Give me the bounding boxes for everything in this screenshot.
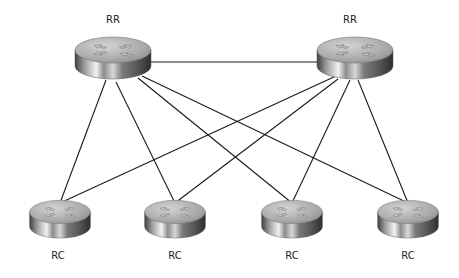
link-rr2-rc3 (292, 80, 350, 203)
router-label: RR (106, 14, 120, 25)
router-icon (262, 200, 323, 238)
network-diagram: RR RR RC RC RC RC (0, 0, 459, 278)
link-rr2-rc1 (60, 76, 336, 203)
router-rc4: RC (378, 200, 439, 261)
router-rr2: RR (317, 14, 393, 79)
router-label: RC (285, 250, 298, 261)
router-icon (145, 200, 206, 238)
link-rr1-rc3 (138, 78, 292, 203)
router-rr1: RR (75, 14, 151, 79)
router-label: RR (343, 14, 357, 25)
router-icon (30, 200, 91, 238)
link-rr2-rc2 (175, 79, 338, 203)
router-icon (75, 37, 151, 79)
router-label: RC (51, 250, 64, 261)
router-rc2: RC (145, 200, 206, 261)
router-label: RC (168, 250, 181, 261)
router-icon (317, 37, 393, 79)
router-icon (378, 200, 439, 238)
link-rr1-rc4 (142, 76, 408, 203)
links (60, 62, 408, 203)
router-rc3: RC (262, 200, 323, 261)
link-rr2-rc4 (358, 80, 408, 203)
router-label: RC (401, 250, 414, 261)
router-rc1: RC (30, 200, 91, 261)
